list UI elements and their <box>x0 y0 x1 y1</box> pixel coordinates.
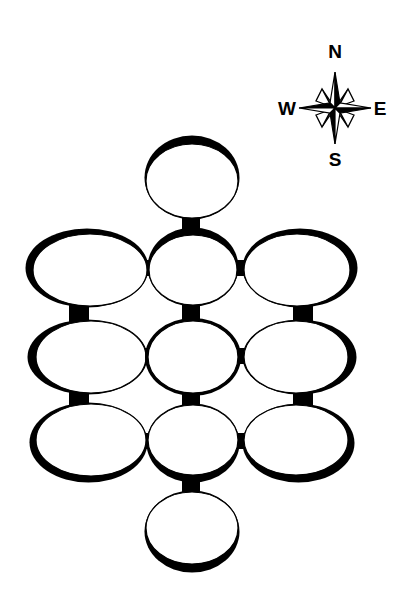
room-floor <box>36 321 146 393</box>
room-floor <box>244 321 348 393</box>
room-row2-right <box>243 320 357 395</box>
room-floor <box>146 492 238 564</box>
room-row3-left <box>30 403 148 483</box>
room-row1-left <box>26 229 149 308</box>
room-floor <box>36 404 146 476</box>
room-floor <box>149 235 237 305</box>
compass-south-label: S <box>329 149 342 170</box>
room-floor <box>244 405 348 475</box>
room-row1-middle <box>148 228 239 307</box>
rooms <box>26 136 358 573</box>
dungeon-map: N S W E <box>0 0 411 595</box>
room-row2-left <box>28 320 148 395</box>
room-bottom <box>145 491 240 573</box>
room-floor <box>148 321 238 393</box>
compass-west-label: W <box>278 98 296 119</box>
room-row1-right <box>243 229 358 308</box>
room-floor <box>244 234 350 306</box>
room-floor <box>146 144 238 218</box>
room-floor <box>33 234 147 306</box>
compass-north-label: N <box>328 41 342 62</box>
compass-star-icon <box>299 72 371 144</box>
room-row3-right <box>243 404 355 483</box>
room-top <box>145 136 240 220</box>
compass-east-label: E <box>374 98 387 119</box>
compass-rose: N S W E <box>278 41 386 170</box>
room-row2-middle <box>145 318 241 396</box>
room-row3-middle <box>147 404 240 483</box>
room-floor <box>148 405 238 475</box>
